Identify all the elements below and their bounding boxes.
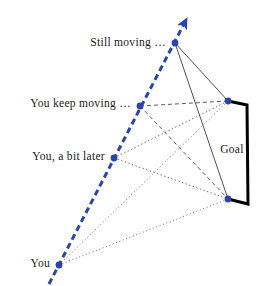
sightline-stillmoving-to-goal-bottom bbox=[175, 43, 228, 199]
observer-dot-still-moving bbox=[172, 40, 179, 47]
observer-dot-you-a-bit-later bbox=[111, 155, 118, 162]
observer-dot-you-keep-moving bbox=[137, 103, 144, 110]
goal-endpoint-top-dot bbox=[225, 98, 232, 105]
observer-dot-you bbox=[56, 262, 63, 269]
sightlines-still-moving bbox=[175, 43, 228, 199]
sightline-you-to-goal-bottom bbox=[59, 199, 228, 265]
figure-canvas: ocular pursuit bbox=[0, 0, 270, 286]
goal-endpoint-bottom-dot bbox=[225, 196, 232, 203]
label-you-a-bit-later: You, a bit later bbox=[32, 151, 105, 163]
sightline-stillmoving-to-goal-top bbox=[175, 43, 228, 101]
sightline-keepmoving-to-goal-top bbox=[140, 101, 228, 106]
label-you-keep-moving: You keep moving … bbox=[30, 98, 131, 110]
label-goal: Goal bbox=[220, 144, 244, 156]
sightline-keepmoving-to-goal-bottom bbox=[140, 106, 228, 199]
label-you: You bbox=[30, 258, 50, 270]
label-still-moving: Still moving … bbox=[90, 37, 166, 49]
sightlines-keep-moving bbox=[140, 101, 228, 199]
sightline-bitlater-to-goal-bottom bbox=[114, 158, 228, 199]
